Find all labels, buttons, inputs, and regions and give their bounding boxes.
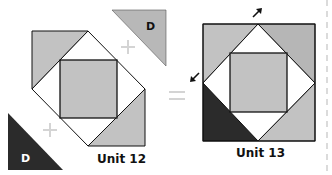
d-label-top: D: [146, 20, 155, 33]
piece-d-bottom-left: D: [8, 113, 63, 170]
unit12-center-square: [60, 60, 117, 118]
unit-12-label: Unit 12: [97, 152, 146, 166]
d-label-bottom: D: [21, 152, 30, 165]
piece-d-top-right: D: [112, 10, 166, 66]
equals-icon: [169, 92, 185, 99]
d-triangle-light: [112, 10, 166, 66]
unit-13-label: Unit 13: [236, 146, 285, 160]
quilt-block-diagram: D D: [0, 0, 332, 175]
arrow-down-left-icon: [190, 73, 199, 82]
unit-13-block: [203, 24, 315, 141]
unit13-center-square: [230, 53, 287, 112]
plus-icon-top: [121, 40, 135, 54]
d-triangle-dark: [8, 113, 63, 170]
plus-icon-bottom: [43, 123, 57, 137]
arrow-up-right-icon: [253, 8, 262, 17]
